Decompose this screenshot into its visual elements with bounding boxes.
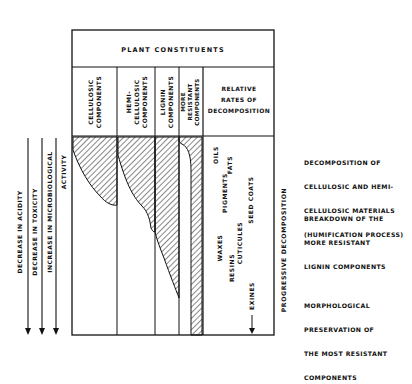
stage-line: COMPONENTS <box>304 374 387 382</box>
column-header-hemicellulosic: HEMI- CELLULOSIC COMPONENTS <box>125 76 148 129</box>
stage-lignin-breakdown: BREAKDOWN OF THE MORE RESISTANT LIGNIN C… <box>304 199 386 279</box>
column-header-line: COMPONENTS <box>141 76 148 129</box>
table-title: PLANT CONSTITUENTS <box>121 46 225 54</box>
column-header-lignin: LIGNIN COMPONENTS <box>159 76 174 129</box>
toxicity-arrow <box>39 138 45 335</box>
material-label-waxes: WAXES <box>216 234 223 261</box>
exines-arrow <box>249 315 255 334</box>
column-header-line: COMPONENTS <box>95 76 102 129</box>
stage-line: CELLULOSIC AND HEMI- <box>304 183 404 191</box>
microbiological-label-line-2: ACTIVITY <box>60 155 67 190</box>
toxicity-label: DECREASE IN TOXICITY <box>31 188 38 276</box>
stage-morphological: MORPHOLOGICAL PRESERVATION OF THE MOST R… <box>304 286 387 384</box>
column-header-more-resistant: MORE RESISTANT COMPONENTS <box>180 78 200 125</box>
rates-header: RELATIVE RATES OF DECOMPOSITION <box>208 85 270 114</box>
material-label-pigments: PIGMENTS <box>221 173 228 213</box>
stage-line: THE MOST RESISTANT <box>304 350 387 358</box>
microbiological-arrow <box>53 138 59 335</box>
column-header-line: RESISTANT <box>187 83 193 120</box>
column-header-line: LIGNIN <box>159 89 166 115</box>
stage-line: DECOMPOSITION OF <box>304 159 404 167</box>
cellulosic-area <box>73 137 117 205</box>
material-label-resins: RESINS <box>228 254 235 282</box>
material-label-oils: OILS <box>212 146 219 164</box>
column-header-line: COMPONENTS <box>167 76 174 129</box>
stage-line: MORPHOLOGICAL <box>304 302 387 310</box>
column-header-line: HEMI- <box>125 91 132 113</box>
column-header-line: MORE <box>180 92 186 112</box>
rates-header-line: RATES OF <box>221 96 257 103</box>
stage-line: PRESERVATION OF <box>304 326 387 334</box>
hemicellulosic-area <box>118 137 155 232</box>
stage-line: MORE RESISTANT <box>304 239 386 247</box>
column-header-line: CELLULOSIC <box>133 79 140 125</box>
lignin-area <box>155 137 179 298</box>
column-header-cellulosic: CELLULOSIC COMPONENTS <box>87 76 102 129</box>
column-header-line: COMPONENTS <box>194 78 200 125</box>
stage-line: LIGNIN COMPONENTS <box>304 263 386 271</box>
rates-header-line: RELATIVE <box>222 85 257 92</box>
material-label-exines: EXINES <box>248 282 255 310</box>
column-header-line: CELLULOSIC <box>87 79 94 125</box>
stage-line: BREAKDOWN OF THE <box>304 215 386 223</box>
microbiological-label: INCREASE IN MICROBIOLOGICAL <box>46 151 53 272</box>
material-label-cuticules: CUTICULES <box>236 222 243 265</box>
rates-header-line: DECOMPOSITION <box>208 107 270 114</box>
material-label-fats: FATS <box>226 156 233 174</box>
acidity-label: DECREASE IN ACIDITY <box>16 190 23 273</box>
progressive-decomposition-label: PROGRESSIVE DECOMPOSITION <box>280 188 287 313</box>
more-resistant-area <box>179 137 202 335</box>
material-label-seed-coats: SEED COATS <box>247 176 254 224</box>
